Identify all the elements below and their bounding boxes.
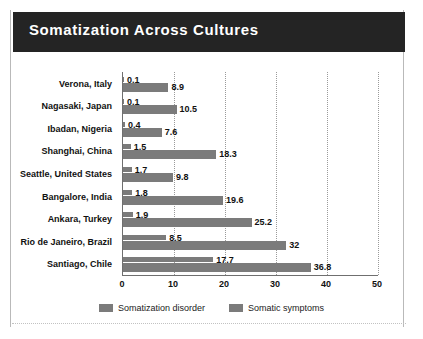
legend-item: Somatic symptoms (229, 302, 324, 313)
bar-group: 1.79.8 (123, 167, 378, 182)
legend-swatch (99, 304, 113, 312)
bar-somatic-symptoms (123, 150, 216, 159)
bar-somatic-symptoms (123, 218, 252, 227)
bar-somatic-symptoms (123, 105, 177, 114)
bar-group: 1.518.3 (123, 144, 378, 159)
bar-group: 1.925.2 (123, 212, 378, 227)
x-axis-tick-label: 40 (311, 279, 341, 289)
bottom-divider (12, 323, 406, 324)
bar-somatization-disorder (123, 212, 133, 217)
category-label: Nagasaki, Japan (41, 101, 112, 111)
bar-somatic-symptoms (123, 83, 168, 92)
bar-somatic-symptoms (123, 196, 223, 205)
bar-somatization-disorder (123, 77, 124, 82)
bar-somatic-symptoms (123, 241, 286, 250)
bar-value-label: 32 (289, 241, 299, 250)
bar-somatization-disorder (123, 122, 125, 127)
bar-somatization-disorder (123, 167, 132, 172)
chart-legend: Somatization disorderSomatic symptoms (0, 298, 423, 316)
bar-somatization-disorder (123, 235, 166, 240)
x-axis-tick-label: 0 (107, 279, 137, 289)
title-bar: Somatization Across Cultures (13, 12, 405, 52)
bar-value-label: 18.3 (219, 150, 237, 159)
bar-somatization-disorder (123, 257, 213, 262)
x-axis-tick-label: 10 (158, 279, 188, 289)
gridline (378, 72, 379, 275)
bar-group: 8.532 (123, 235, 378, 250)
category-label: Rio de Janeiro, Brazil (20, 237, 112, 247)
bar-somatization-disorder (123, 144, 131, 149)
bar-somatization-disorder (123, 190, 132, 195)
category-label: Ibadan, Nigeria (47, 124, 112, 134)
category-label: Verona, Italy (59, 79, 112, 89)
bar-value-label: 19.6 (226, 196, 244, 205)
bar-group: 0.47.6 (123, 122, 378, 137)
category-label: Bangalore, India (42, 192, 112, 202)
bar-group: 0.110.5 (123, 99, 378, 114)
plot-area: 0.18.90.110.50.47.61.518.31.79.81.819.61… (122, 72, 378, 276)
bar-value-label: 8.9 (171, 83, 184, 92)
page-title: Somatization Across Cultures (29, 21, 259, 38)
category-label: Shanghai, China (41, 146, 112, 156)
legend-label: Somatization disorder (118, 303, 205, 313)
chart-figure: Somatization Across Cultures Verona, Ita… (0, 0, 423, 339)
bar-value-label: 9.8 (176, 173, 189, 182)
bar-value-label: 25.2 (255, 218, 273, 227)
bar-somatic-symptoms (123, 173, 173, 182)
bar-somatic-symptoms (123, 263, 311, 272)
x-axis-tick-label: 50 (362, 279, 392, 289)
x-axis-tick-label: 30 (260, 279, 290, 289)
x-axis-tick-label: 20 (209, 279, 239, 289)
bar-somatization-disorder (123, 99, 124, 104)
bar-group: 1.819.6 (123, 190, 378, 205)
bar-value-label: 36.8 (314, 263, 332, 272)
legend-swatch (229, 304, 243, 312)
bar-group: 17.736.8 (123, 257, 378, 272)
bar-value-label: 10.5 (180, 105, 198, 114)
category-label: Seattle, United States (20, 169, 112, 179)
bar-somatic-symptoms (123, 128, 162, 137)
bar-group: 0.18.9 (123, 77, 378, 92)
legend-label: Somatic symptoms (248, 303, 324, 313)
category-label: Ankara, Turkey (48, 214, 112, 224)
category-label: Santiago, Chile (47, 259, 112, 269)
bar-value-label: 7.6 (165, 128, 178, 137)
legend-item: Somatization disorder (99, 302, 205, 313)
